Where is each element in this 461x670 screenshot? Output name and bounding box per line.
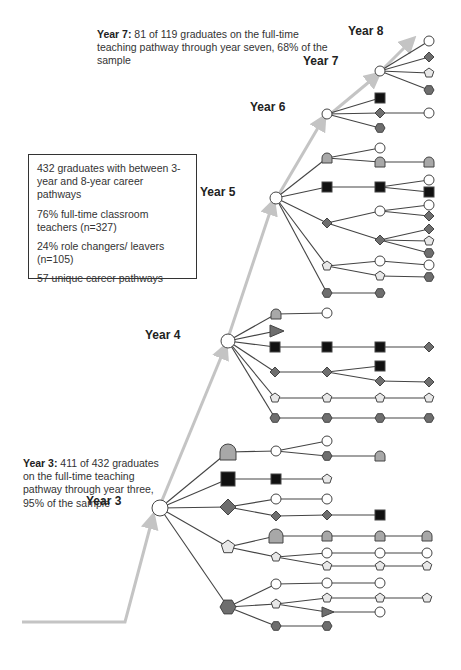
pathway-edge — [380, 187, 429, 192]
triangle-node-icon — [270, 325, 284, 337]
year-label-6: Year 6 — [250, 100, 285, 114]
year-label-7: Year 7 — [303, 54, 338, 68]
diamond-node-icon — [424, 342, 434, 352]
pathway-edge — [380, 211, 429, 216]
year-label-4: Year 4 — [145, 328, 180, 342]
summary-box: 432 graduates with between 3-year and 8-… — [28, 154, 197, 279]
circle-node-icon — [271, 446, 281, 456]
pathway-edge — [228, 341, 275, 418]
square-node-icon — [375, 93, 385, 103]
dome-node-icon — [375, 157, 385, 167]
dome-node-icon — [375, 451, 385, 461]
pathway-edge — [276, 583, 327, 584]
pathway-edge — [380, 71, 429, 73]
circle-node-icon — [322, 308, 332, 318]
circle-node-icon — [424, 175, 434, 185]
summary-teachers: 76% full-time classroom teachers (n=327) — [37, 208, 188, 234]
pentagon-node-icon — [375, 593, 385, 602]
dome-node-icon — [322, 153, 332, 163]
pentagon-node-icon — [375, 561, 385, 570]
pathway-edge — [276, 198, 327, 266]
circle-node-icon — [424, 260, 434, 270]
pathway-edge — [276, 198, 327, 223]
circle-node-icon — [375, 256, 385, 266]
pathway-edge — [160, 508, 228, 547]
circle-node-icon — [322, 494, 332, 504]
pentagon-node-icon — [271, 599, 281, 608]
pentagon-node-icon — [375, 271, 385, 280]
circle-node-icon — [375, 143, 385, 153]
year-hub-circle-icon — [270, 192, 282, 204]
pentagon-node-icon — [322, 593, 332, 602]
pathway-edge — [276, 598, 327, 604]
pathway-edge — [327, 211, 380, 223]
diamond-node-icon — [375, 235, 385, 245]
pathway-edge — [276, 451, 327, 456]
year7-annotation: Year 7: 81 of 119 graduates on the full-… — [97, 28, 337, 68]
pathway-edge — [327, 261, 380, 266]
pathway-edge — [380, 261, 429, 265]
diamond-node-icon — [424, 52, 434, 62]
circle-node-icon — [322, 578, 332, 588]
pathway-edge — [380, 205, 429, 211]
career-pathway-tree — [0, 0, 461, 670]
year-label-5: Year 5 — [200, 185, 235, 199]
hexagon-node-icon — [220, 600, 236, 614]
pathway-edge — [276, 557, 327, 566]
circle-node-icon — [322, 436, 332, 446]
pathway-edge — [327, 223, 380, 240]
hexagon-node-icon — [424, 249, 434, 258]
circle-node-icon — [375, 206, 385, 216]
pathway-edge — [380, 180, 429, 187]
square-node-icon — [424, 187, 434, 197]
square-node-icon — [322, 182, 332, 192]
hexagon-node-icon — [424, 273, 434, 282]
hexagon-node-icon — [322, 414, 332, 423]
summary-changers: 24% role changers/ leavers (n=105) — [37, 240, 188, 266]
pentagon-node-icon — [424, 236, 434, 245]
pathway-edge — [380, 276, 429, 277]
pentagon-node-icon — [424, 393, 434, 402]
pathway-edge — [276, 198, 327, 293]
pentagon-node-icon — [424, 68, 434, 77]
diamond-node-icon — [322, 367, 332, 377]
pathway-edge — [228, 547, 276, 557]
triangle-node-icon — [322, 607, 334, 617]
pentagon-node-icon — [322, 474, 332, 483]
circle-node-icon — [424, 108, 434, 118]
hexagon-node-icon — [424, 86, 434, 95]
arrow-segment — [224, 206, 272, 350]
dome-node-icon — [375, 531, 385, 541]
hexagon-node-icon — [271, 622, 281, 631]
pathway-edge — [228, 584, 276, 607]
pentagon-node-icon — [221, 540, 234, 553]
pathway-edge — [228, 341, 275, 398]
main-progression-arrow — [22, 42, 410, 622]
pathway-edge — [327, 372, 380, 381]
dome-node-icon — [322, 531, 332, 541]
pentagon-node-icon — [322, 561, 332, 570]
year7-annotation-text: 81 of 119 graduates on the full-time tea… — [97, 28, 328, 66]
pathway-edge — [327, 148, 380, 158]
pathway-edge — [327, 113, 380, 114]
pathway-edge — [160, 507, 228, 508]
pathway-edge — [327, 158, 380, 162]
pentagon-node-icon — [422, 593, 432, 602]
circle-node-icon — [271, 494, 281, 504]
square-node-icon — [375, 361, 385, 371]
pentagon-node-icon — [322, 393, 332, 402]
hexagon-node-icon — [375, 124, 385, 133]
year3-annotation-label: Year 3: — [23, 457, 57, 469]
arrow-segment-to-year3 — [22, 520, 152, 622]
diamond-node-icon — [424, 224, 434, 234]
circle-node-icon — [422, 548, 432, 558]
pathway-edge — [380, 229, 429, 240]
diamond-node-icon — [270, 367, 280, 377]
pathway-edge — [327, 266, 380, 276]
pathway-edge — [160, 508, 228, 607]
circle-node-icon — [271, 579, 281, 589]
pathway-edge — [327, 98, 380, 114]
diamond-node-icon — [271, 511, 281, 521]
pathway-edge — [276, 313, 327, 314]
diamond-node-icon — [322, 218, 332, 228]
